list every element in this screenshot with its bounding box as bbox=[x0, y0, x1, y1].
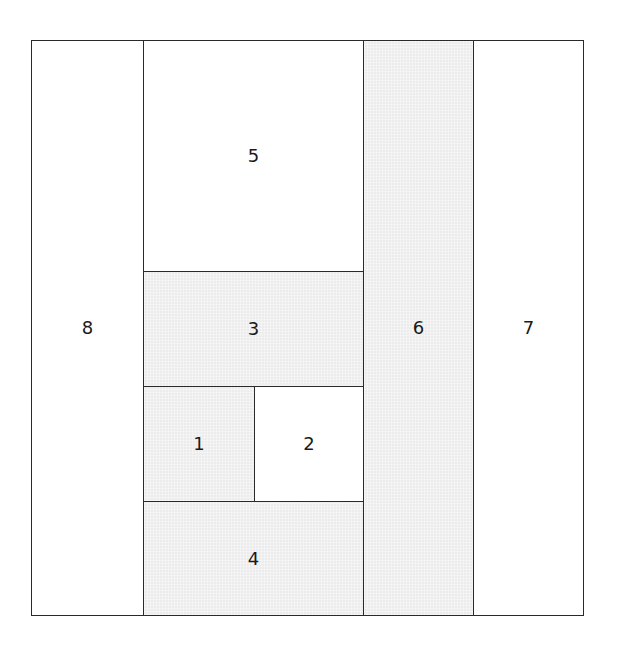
region-2-label: 2 bbox=[303, 435, 314, 453]
region-5-label: 5 bbox=[248, 147, 259, 165]
region-5: 5 bbox=[143, 40, 364, 272]
region-7: 7 bbox=[473, 40, 584, 616]
region-1: 1 bbox=[143, 386, 255, 502]
region-6-label: 6 bbox=[413, 319, 424, 337]
region-6: 6 bbox=[363, 40, 474, 616]
region-1-label: 1 bbox=[193, 435, 204, 453]
region-8: 8 bbox=[31, 40, 144, 616]
region-3-label: 3 bbox=[248, 320, 259, 338]
region-4-label: 4 bbox=[248, 550, 259, 568]
region-7-label: 7 bbox=[523, 319, 534, 337]
region-2: 2 bbox=[254, 386, 364, 502]
region-3: 3 bbox=[143, 271, 364, 387]
rectangle-partition-diagram: 8 5 3 1 2 4 6 7 bbox=[31, 40, 584, 616]
region-4: 4 bbox=[143, 501, 364, 616]
region-8-label: 8 bbox=[82, 319, 93, 337]
